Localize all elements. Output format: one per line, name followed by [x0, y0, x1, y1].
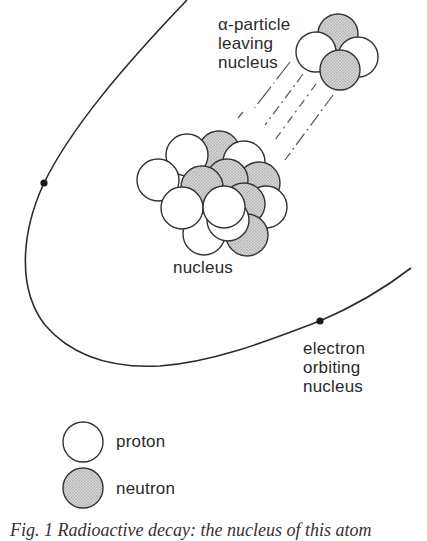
- alpha-label: α-particle leaving nucleus: [218, 15, 290, 72]
- electron-dot: [40, 179, 47, 186]
- proton: [203, 186, 245, 228]
- nucleus-cluster: [137, 131, 287, 256]
- alpha-label-line3: nucleus: [218, 53, 290, 72]
- alpha-label-line2: leaving: [218, 34, 290, 53]
- figure-caption: Fig. 1 Radioactive decay: the nucleus of…: [10, 520, 371, 541]
- alpha-label-line1: α-particle: [218, 15, 290, 34]
- legend-neutron-label: neutron: [116, 479, 175, 498]
- nucleus-label: nucleus: [173, 258, 233, 277]
- proton: [161, 187, 203, 229]
- legend-neutron-symbol: [63, 468, 103, 508]
- electron-label-line3: nucleus: [303, 377, 365, 396]
- legend-proton-label: proton: [116, 432, 165, 451]
- neutron: [320, 50, 360, 90]
- electron-label-line1: electron: [303, 339, 365, 358]
- electron-label: electron orbiting nucleus: [303, 339, 365, 396]
- electron-label-line2: orbiting: [303, 358, 365, 377]
- alpha-particle: [296, 14, 378, 90]
- legend-proton-symbol: [63, 422, 103, 462]
- electron-dot: [316, 317, 323, 324]
